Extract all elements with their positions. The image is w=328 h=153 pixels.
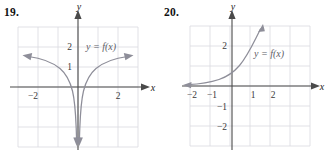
tick-label-x-1-20: 1 [251,90,256,100]
textbook-figure-page: 19. [0,0,328,153]
tick-label-x-neg2-20: −2 [187,90,197,100]
problem-19: 19. [0,0,164,153]
x-axis-label-19: x [150,82,156,93]
tick-label-x-2-20: 2 [271,90,276,100]
tick-label-x-neg1-20: −1 [207,90,217,100]
tick-label-y-neg2-20: −2 [217,122,227,132]
y-axis-label-20: y [230,1,236,12]
x-axis-label-20: x [319,81,325,92]
tick-label-y-2-19: 2 [67,42,72,52]
curve-20-arrowheads [183,24,265,88]
tick-label-y-2-20: 2 [222,41,227,51]
curve-label-19: y = f(x) [85,41,117,53]
y-axis-label-19: y [76,1,82,12]
axes-19 [10,14,144,150]
tick-label-y-neg1-20: −1 [217,102,227,112]
tick-label-x-2-19: 2 [116,91,121,101]
problem-20-figure: −2 −1 1 2 2 −1 −2 x y y = f(x) [164,0,328,153]
problem-20: 20. [164,0,328,153]
problem-19-figure: −2 2 1 2 x y y = f(x) [0,0,164,153]
curve-label-20: y = f(x) [253,48,285,60]
tick-label-x-neg2-19: −2 [28,91,38,101]
axes-20 [182,14,314,150]
tick-label-y-1-19: 1 [67,62,72,72]
